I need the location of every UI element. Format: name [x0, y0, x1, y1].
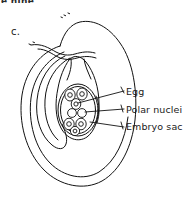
- antipodal-nucleus-right: [79, 122, 84, 127]
- antipodal-nucleus-left: [67, 122, 72, 127]
- egg-apparatus-group: [65, 88, 87, 109]
- micropylar-neck-right: [84, 59, 91, 79]
- polar-nucleus-right: [78, 109, 87, 118]
- chalaza-stipple-group: [61, 13, 70, 18]
- leader-line-polar: [85, 109, 124, 112]
- figure-panel: e nine c.: [0, 0, 196, 200]
- funiculus-upper-line: [31, 45, 95, 55]
- label-polar-nuclei: Polar nuclei: [126, 105, 182, 115]
- egg-cell-nucleus: [74, 102, 78, 106]
- polar-nuclei-group: [68, 109, 87, 118]
- ovule-diagram-svg: [0, 0, 196, 200]
- synergid-nucleus-left: [68, 93, 73, 98]
- label-embryo-sac: Embryo sac: [126, 122, 183, 132]
- funiculus-lower-line: [38, 49, 96, 59]
- antipodal-nucleus-bottom: [73, 129, 77, 133]
- leader-tick-embryo-sac: [121, 122, 123, 129]
- polar-nucleus-left: [68, 109, 77, 118]
- synergid-nucleus-right: [80, 92, 85, 97]
- label-egg: Egg: [126, 87, 144, 97]
- chalaza-stipple: [61, 13, 70, 18]
- leader-tick-polar: [121, 105, 123, 112]
- inner-integument-outline: [37, 56, 67, 149]
